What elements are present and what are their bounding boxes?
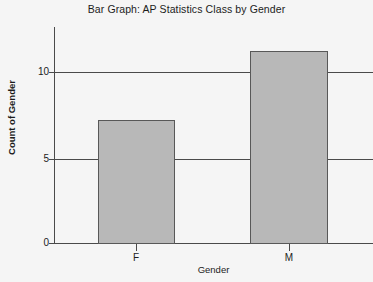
x-axis-title: Gender: [54, 264, 373, 275]
y-tick-mark-10: [49, 72, 55, 73]
x-tick-label-F: F: [106, 253, 166, 263]
y-axis-title: Count of Gender: [6, 73, 17, 163]
plot-area: 10 5 0 F M: [0, 0, 373, 282]
y-tick-mark-0: [49, 243, 55, 244]
x-tick-mark-M: [289, 244, 290, 251]
bar-F[interactable]: [98, 120, 175, 244]
x-tick-label-M: M: [259, 253, 319, 263]
y-axis-line: [54, 27, 55, 244]
y-tick-label-0: 0: [9, 238, 49, 248]
y-tick-mark-5: [49, 159, 55, 160]
bar-chart: Bar Graph: AP Statistics Class by Gender…: [0, 0, 373, 282]
x-tick-mark-F: [136, 244, 137, 251]
bar-M[interactable]: [250, 51, 328, 244]
